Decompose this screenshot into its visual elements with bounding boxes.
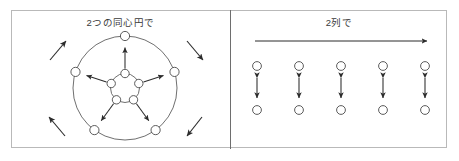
radial-arrow-pair-4 [101, 104, 113, 121]
rotation-arrow-top-right [187, 41, 203, 60]
inner-node-5 [107, 79, 115, 87]
two-rows-diagram [231, 10, 447, 148]
grid-node-r2c5 [421, 106, 430, 115]
radial-arrow-pair-3 [136, 104, 148, 121]
outer-node-1 [120, 31, 129, 40]
grid-node-r1c5 [421, 62, 430, 71]
grid-node-r1c3 [337, 62, 346, 71]
rotation-arrow-bottom-left [49, 117, 65, 136]
outer-node-2 [170, 67, 179, 76]
grid-node-r1c1 [253, 62, 262, 71]
inner-node-3 [129, 96, 137, 104]
rotation-arrow-top-left [50, 41, 66, 60]
inner-node-2 [135, 79, 143, 87]
concentric-circles-diagram [11, 10, 230, 148]
inner-node-4 [112, 96, 120, 104]
grid-node-r2c4 [379, 106, 388, 115]
outer-node-3 [151, 126, 160, 135]
rotation-arrow-bottom-right [187, 117, 202, 136]
grid-node-r1c2 [295, 62, 304, 71]
grid-node-r2c1 [253, 106, 262, 115]
outer-node-5 [71, 67, 80, 76]
radial-arrow-pair-5 [86, 75, 106, 81]
panel-concentric-circles: 2つの同心円で [11, 10, 230, 148]
grid-node-r2c2 [295, 106, 304, 115]
panel-two-rows: 2列で [231, 10, 447, 148]
grid-node-r2c3 [337, 106, 346, 115]
figure-root: 2つの同心円で [0, 0, 459, 161]
inner-node-1 [121, 69, 129, 77]
radial-arrow-pair-2 [144, 75, 164, 81]
outer-node-4 [90, 126, 99, 135]
grid-node-r1c4 [379, 62, 388, 71]
